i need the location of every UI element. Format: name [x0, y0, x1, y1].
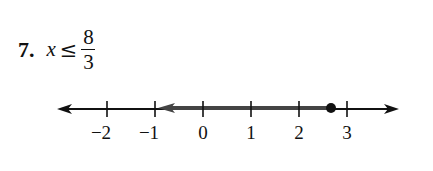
- tick-label: 1: [246, 122, 256, 143]
- tick-label: 2: [294, 122, 304, 143]
- tick-label: 0: [198, 122, 208, 143]
- number-line: −2−10123: [0, 0, 433, 171]
- tick-label: −2: [91, 122, 111, 143]
- closed-dot: [326, 103, 336, 113]
- tick-label: −1: [139, 122, 159, 143]
- tick-label: 3: [342, 122, 352, 143]
